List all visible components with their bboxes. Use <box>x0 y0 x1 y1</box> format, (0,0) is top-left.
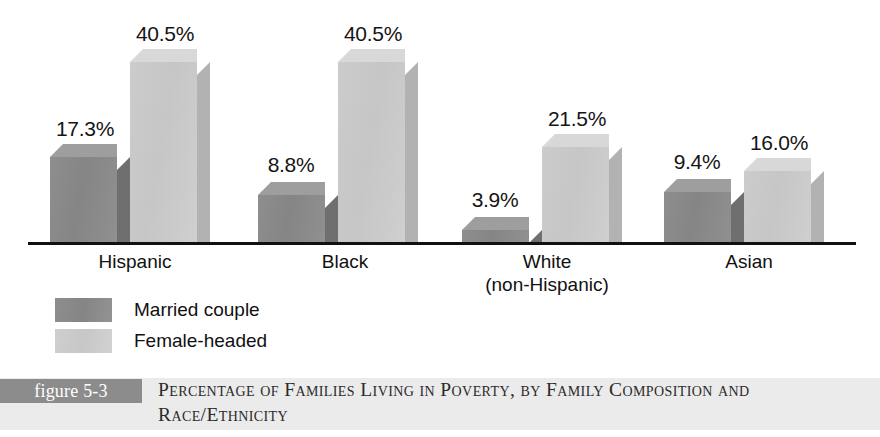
bar-black-married-couple[interactable] <box>258 195 325 243</box>
bar-group-black: 8.8% 40.5% <box>258 43 438 243</box>
bar-value-label: 40.5% <box>313 22 433 46</box>
bar-top-face <box>542 134 609 147</box>
bar-front-face <box>744 171 811 243</box>
bar-top-face <box>338 49 405 62</box>
bar-value-label: 8.8% <box>231 153 351 177</box>
bar-side-face <box>609 147 622 243</box>
bar-group-white-non-hispanic: 3.9% 21.5% <box>462 43 642 243</box>
bar-top-face <box>130 49 197 62</box>
x-axis-label-hispanic: Hispanic <box>25 250 245 273</box>
legend-swatch-icon <box>55 329 112 353</box>
bar-side-face <box>325 195 338 243</box>
bar-value-label: 16.0% <box>719 131 839 155</box>
legend-swatch-icon <box>55 298 112 322</box>
bar-side-face <box>117 157 130 243</box>
x-axis-label-black: Black <box>235 250 455 273</box>
bar-hispanic-married-couple[interactable] <box>50 157 117 243</box>
bar-value-label: 3.9% <box>435 188 555 212</box>
bar-side-face <box>731 192 744 243</box>
bar-front-face <box>542 147 609 243</box>
legend-label: Female-headed <box>134 330 267 352</box>
x-axis-label-asian: Asian <box>639 250 859 273</box>
bar-top-face <box>664 179 731 192</box>
bar-asian-married-couple[interactable] <box>664 192 731 243</box>
legend-label: Married couple <box>134 299 260 321</box>
figure-number-badge: figure 5-3 <box>0 379 142 403</box>
bar-front-face <box>130 62 197 243</box>
x-axis-label-line1: White <box>523 251 572 272</box>
x-axis-label-line1: Asian <box>725 251 773 272</box>
chart-legend: Married couple Female-headed <box>55 296 267 358</box>
x-axis-line <box>28 242 856 245</box>
bar-black-female-headed[interactable] <box>338 62 405 243</box>
bar-side-face <box>197 62 210 243</box>
chart-plot-area: 17.3% 40.5% 8.8% 40.5% 3.9% <box>0 0 880 245</box>
bar-side-face <box>405 62 418 243</box>
x-axis-label-white-non-hispanic: White (non-Hispanic) <box>437 250 657 296</box>
bar-white-female-headed[interactable] <box>542 147 609 243</box>
bar-asian-female-headed[interactable] <box>744 171 811 243</box>
bar-value-label: 17.3% <box>25 117 145 141</box>
bar-value-label: 40.5% <box>105 22 225 46</box>
x-axis-label-line1: Black <box>322 251 368 272</box>
x-axis-label-line2: (non-Hispanic) <box>437 273 657 296</box>
bar-top-face <box>258 182 325 195</box>
x-axis-label-line1: Hispanic <box>99 251 172 272</box>
bar-front-face <box>258 195 325 243</box>
bar-front-face <box>50 157 117 243</box>
bar-group-hispanic: 17.3% 40.5% <box>50 43 230 243</box>
bar-top-face <box>462 217 529 230</box>
bar-front-face <box>664 192 731 243</box>
bar-value-label: 21.5% <box>517 107 637 131</box>
bar-hispanic-female-headed[interactable] <box>130 62 197 243</box>
legend-item-female-headed[interactable]: Female-headed <box>55 327 267 354</box>
bar-side-face <box>811 171 824 243</box>
bar-group-asian: 9.4% 16.0% <box>664 43 844 243</box>
figure-caption: Percentage of Families Living in Poverty… <box>158 377 858 427</box>
bar-front-face <box>338 62 405 243</box>
bar-top-face <box>50 144 117 157</box>
legend-item-married-couple[interactable]: Married couple <box>55 296 267 323</box>
